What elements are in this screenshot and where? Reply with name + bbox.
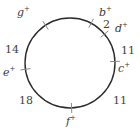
main-circle [25, 18, 115, 108]
node-sign-c: + [124, 61, 130, 69]
node-sign-d: + [122, 21, 128, 29]
node-label-c: c+ [118, 63, 130, 74]
node-label-g: g+ [17, 7, 30, 18]
tick-mark-g [43, 21, 48, 29]
node-label-d: d+ [115, 23, 128, 34]
tick-marks-group [20, 19, 119, 113]
node-sign-b: + [106, 5, 112, 13]
tick-mark-b [89, 19, 94, 28]
weight-label-f-e: 18 [19, 95, 33, 106]
node-sign-g: + [24, 5, 30, 13]
node-sign-f: + [70, 114, 76, 122]
node-label-e: e+ [3, 67, 15, 78]
tick-mark-e [20, 69, 30, 70]
weight-label-d-c: 11 [121, 45, 135, 56]
node-sign-e: + [10, 65, 16, 73]
weight-label-e-g: 14 [5, 44, 19, 55]
weight-label-c-f: 11 [113, 95, 127, 106]
weight-label-b-d: 2 [103, 19, 110, 30]
node-letter-g: g [17, 6, 24, 19]
node-label-f: f+ [66, 116, 76, 127]
node-label-b: b+ [99, 7, 112, 18]
node-letter-d: d [115, 22, 122, 35]
circle-diagram: b+ d+ c+ f+ e+ g+ 2 11 11 18 14 [0, 0, 140, 133]
